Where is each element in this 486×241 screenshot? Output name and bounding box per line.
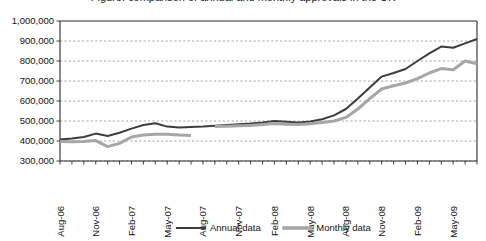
chart-plot: 300,000400,000500,000600,000700,000800,0…	[0, 0, 486, 241]
series-line-monthly	[60, 61, 477, 147]
chart-container: Figure: comparison of annual and monthly…	[0, 0, 486, 241]
x-axis-label: Feb-09	[412, 206, 423, 236]
y-axis-label: 800,000	[20, 55, 54, 66]
x-axis-label: Feb-08	[269, 206, 280, 236]
y-axis-label: 500,000	[20, 115, 54, 126]
x-axis-label: May-07	[162, 206, 173, 238]
x-axis-label: Nov-06	[90, 206, 101, 237]
x-axis-label: May-09	[448, 206, 459, 238]
x-axis-label: May-08	[305, 206, 316, 238]
y-axis-label: 700,000	[20, 75, 54, 86]
y-axis-label: 400,000	[20, 135, 54, 146]
x-axis-label: Nov-08	[376, 206, 387, 237]
y-axis-label: 900,000	[20, 35, 54, 46]
y-axis-label: 1,000,000	[12, 15, 54, 26]
y-axis-label: 600,000	[20, 95, 54, 106]
x-axis-label: Feb-07	[126, 206, 137, 236]
y-axis-label: 300,000	[20, 155, 54, 166]
x-axis-label: Aug-07	[197, 206, 208, 237]
x-axis-label: Aug-06	[55, 206, 66, 237]
legend-label-annual: Annual data	[210, 222, 261, 233]
legend-label-monthly: Monthly data	[316, 222, 371, 233]
